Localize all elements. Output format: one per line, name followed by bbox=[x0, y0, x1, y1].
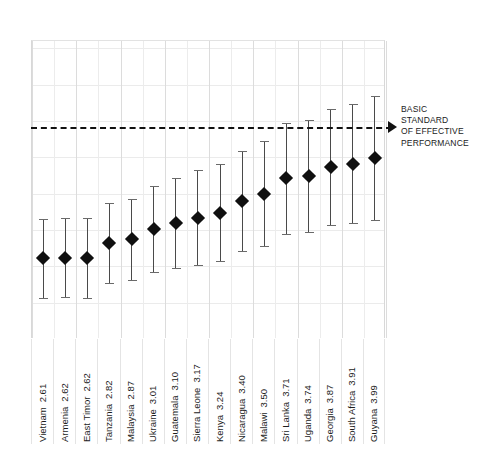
error-bar-cap-lower bbox=[83, 298, 92, 299]
category-label: Sri Lanka3.71 bbox=[279, 378, 290, 442]
error-bar-cap-upper bbox=[305, 120, 314, 121]
category-value: 3.74 bbox=[302, 385, 313, 404]
category-value: 3.87 bbox=[324, 385, 335, 404]
data-marker bbox=[279, 171, 293, 185]
category-label: Malawi3.50 bbox=[257, 389, 268, 442]
reference-line bbox=[31, 127, 392, 129]
category-label-cell: South Africa3.91 bbox=[341, 339, 363, 444]
category-value: 3.01 bbox=[147, 386, 158, 405]
category-label-cell: Tanzania2.82 bbox=[97, 339, 119, 444]
category-label-cell: Guatemala3.10 bbox=[164, 339, 186, 444]
category-label: Guatemala3.10 bbox=[169, 372, 180, 442]
error-bar-cap-upper bbox=[327, 109, 336, 110]
data-marker bbox=[235, 194, 249, 208]
category-name: Kenya bbox=[213, 415, 224, 442]
category-value: 3.91 bbox=[346, 367, 357, 386]
reference-label-line-1: BASIC bbox=[401, 104, 485, 115]
category-label: Nicaragua3.40 bbox=[235, 375, 246, 442]
data-marker bbox=[80, 251, 94, 265]
error-bar-cap-lower bbox=[371, 220, 380, 221]
category-labels: Vietnam2.61Armenia2.62East Timor2.62Tanz… bbox=[31, 339, 385, 444]
category-label-cell: Guyana3.99 bbox=[363, 339, 385, 444]
gridline-vertical bbox=[386, 41, 387, 338]
category-value: 2.61 bbox=[36, 384, 47, 403]
category-label: Vietnam2.61 bbox=[36, 384, 47, 442]
category-name: Malaysia bbox=[125, 405, 136, 443]
reference-label-line-2: STANDARD bbox=[401, 115, 485, 126]
data-marker bbox=[346, 157, 360, 171]
error-bar-cap-lower bbox=[150, 272, 159, 273]
category-label-cell: Nicaragua3.40 bbox=[230, 339, 252, 444]
chart-figure: BASIC STANDARD OF EFFECTIVE PERFORMANCE … bbox=[0, 0, 485, 470]
reference-label-line-3: OF EFFECTIVE bbox=[401, 126, 485, 137]
category-name: East Timor bbox=[80, 397, 91, 442]
category-label-cell: Georgia3.87 bbox=[319, 339, 341, 444]
error-bar-cap-upper bbox=[371, 96, 380, 97]
category-label: Guyana3.99 bbox=[367, 385, 378, 442]
error-bar-cap-lower bbox=[216, 261, 225, 262]
error-bar-cap-upper bbox=[83, 218, 92, 219]
category-label-cell: East Timor2.62 bbox=[75, 339, 97, 444]
category-value: 3.17 bbox=[191, 364, 202, 383]
category-label: East Timor2.62 bbox=[80, 373, 91, 442]
error-bar-cap-lower bbox=[260, 246, 269, 247]
error-bar-cap-upper bbox=[216, 164, 225, 165]
error-bar-cap-upper bbox=[238, 151, 247, 152]
error-bar-cap-upper bbox=[349, 104, 358, 105]
data-marker bbox=[301, 169, 315, 183]
error-bar-cap-upper bbox=[150, 186, 159, 187]
data-marker bbox=[191, 211, 205, 225]
category-name: Armenia bbox=[58, 407, 69, 442]
data-marker bbox=[102, 236, 116, 250]
category-name: Sri Lanka bbox=[279, 402, 290, 442]
error-bar-cap-lower bbox=[39, 298, 48, 299]
category-label-cell: Malawi3.50 bbox=[252, 339, 274, 444]
category-label-cell: Kenya3.24 bbox=[208, 339, 230, 444]
reference-arrow-icon bbox=[388, 121, 397, 133]
reference-line-label: BASIC STANDARD OF EFFECTIVE PERFORMANCE bbox=[401, 104, 485, 149]
category-value: 3.10 bbox=[169, 372, 180, 391]
data-marker bbox=[36, 251, 50, 265]
category-value: 2.87 bbox=[125, 381, 136, 400]
error-bar-cap-lower bbox=[305, 232, 314, 233]
category-name: Nicaragua bbox=[235, 399, 246, 442]
category-label: Uganda3.74 bbox=[302, 385, 313, 442]
category-label: Tanzania2.82 bbox=[102, 380, 113, 442]
error-bar-cap-lower bbox=[327, 225, 336, 226]
category-label-cell: Armenia2.62 bbox=[53, 339, 75, 444]
category-name: South Africa bbox=[346, 391, 357, 442]
category-value: 3.24 bbox=[213, 392, 224, 411]
category-label: Georgia3.87 bbox=[324, 385, 335, 442]
data-marker bbox=[124, 232, 138, 246]
error-bar-cap-lower bbox=[128, 280, 137, 281]
category-name: Tanzania bbox=[102, 404, 113, 442]
category-name: Guatemala bbox=[169, 396, 180, 442]
category-value: 2.62 bbox=[58, 383, 69, 402]
error-bar-cap-upper bbox=[260, 141, 269, 142]
category-value: 3.71 bbox=[279, 378, 290, 397]
category-name: Vietnam bbox=[36, 407, 47, 442]
category-label: Ukraine3.01 bbox=[147, 386, 158, 442]
error-bar-cap-upper bbox=[61, 218, 70, 219]
error-bar-cap-lower bbox=[282, 234, 291, 235]
data-marker bbox=[257, 187, 271, 201]
category-label-cell: Sri Lanka3.71 bbox=[274, 339, 296, 444]
error-bar-cap-lower bbox=[61, 297, 70, 298]
category-label-cell: Sierra Leone3.17 bbox=[186, 339, 208, 444]
error-bar-cap-upper bbox=[39, 219, 48, 220]
data-marker bbox=[368, 151, 382, 165]
data-marker bbox=[324, 160, 338, 174]
plot-area bbox=[31, 40, 385, 338]
error-bar-cap-upper bbox=[128, 199, 137, 200]
category-label: Kenya3.24 bbox=[213, 392, 224, 442]
category-value: 3.99 bbox=[367, 385, 378, 404]
category-value: 3.50 bbox=[257, 389, 268, 408]
error-bar-cap-lower bbox=[238, 251, 247, 252]
category-name: Sierra Leone bbox=[191, 388, 202, 442]
error-bar-cap-lower bbox=[172, 268, 181, 269]
category-label-cell: Malaysia2.87 bbox=[120, 339, 142, 444]
category-name: Georgia bbox=[324, 408, 335, 442]
error-bar-cap-lower bbox=[349, 223, 358, 224]
series-layer bbox=[32, 41, 384, 338]
category-name: Ukraine bbox=[147, 409, 158, 442]
